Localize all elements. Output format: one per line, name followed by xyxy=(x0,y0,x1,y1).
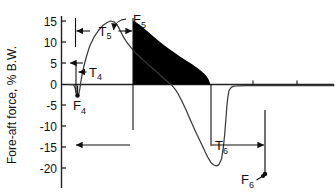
fore-aft-force-chart: Fore-aft force, % B.W. 15 10 5 0 -5 -10 … xyxy=(0,0,335,195)
y-tick-label-10: 10 xyxy=(44,36,58,50)
y-tick-label-15: 15 xyxy=(44,15,58,29)
y-axis-label: Fore-aft force, % B.W. xyxy=(5,46,19,164)
y-tick-label-minus15: -15 xyxy=(40,141,58,155)
chart-figure: Fore-aft force, % B.W. 15 10 5 0 -5 -10 … xyxy=(0,0,335,195)
y-tick-label-5: 5 xyxy=(50,57,57,71)
y-tick-label-0: 0 xyxy=(50,78,57,92)
y-tick-label-minus5: -5 xyxy=(46,99,57,113)
y-tick-label-minus10: -10 xyxy=(40,120,58,134)
y-tick-label-minus20: -20 xyxy=(40,162,58,176)
